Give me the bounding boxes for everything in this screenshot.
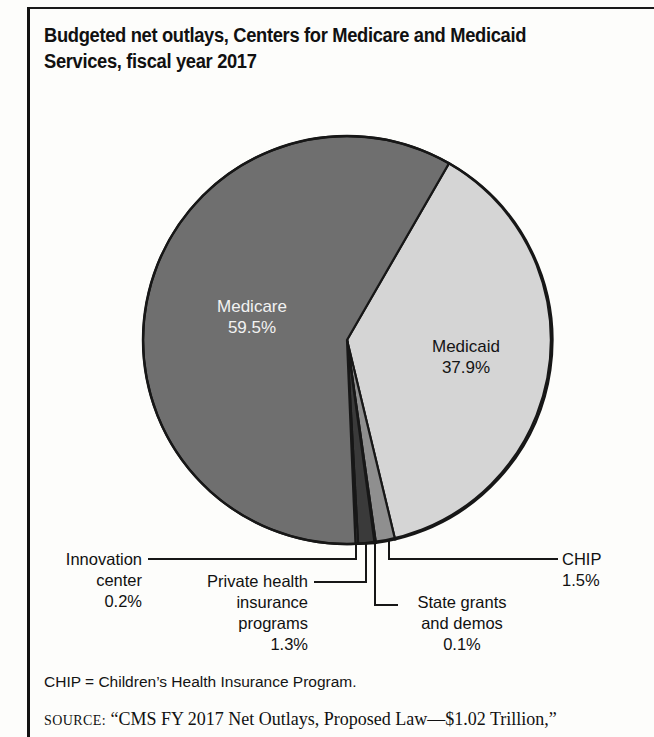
figure-source: SOURCE: “CMS FY 2017 Net Outlays, Propos…	[44, 709, 557, 730]
slice-label-medicare-name: Medicare	[217, 297, 287, 316]
callout-innovation-line-2: center	[20, 570, 142, 591]
slice-label-medicaid-value: 37.9%	[442, 358, 490, 377]
slice-label-medicaid: Medicaid 37.9%	[396, 336, 536, 378]
callout-state-line-2: and demos	[392, 613, 532, 634]
callout-innovation-value: 0.2%	[20, 591, 142, 612]
callout-state-line-1: State grants	[392, 592, 532, 613]
callout-private-line-3: programs	[158, 613, 308, 634]
callout-private-line-2: insurance	[158, 592, 308, 613]
callout-label-private-health: Private health insurance programs 1.3%	[158, 571, 308, 655]
slice-label-medicaid-name: Medicaid	[432, 337, 500, 356]
slice-label-medicare-value: 59.5%	[228, 318, 276, 337]
callout-chip-value: 1.5%	[562, 570, 642, 591]
source-text: “CMS FY 2017 Net Outlays, Proposed Law—$…	[110, 709, 556, 729]
slice-label-medicare: Medicare 59.5%	[182, 296, 322, 338]
callout-label-chip: CHIP 1.5%	[562, 549, 642, 591]
callout-state-value: 0.1%	[392, 634, 532, 655]
leader-line-innovation	[148, 544, 356, 559]
callout-label-state-grants: State grants and demos 0.1%	[392, 592, 532, 655]
figure-page: Budgeted net outlays, Centers for Medica…	[0, 0, 654, 737]
figure-footnote: CHIP = Children’s Health Insurance Progr…	[44, 673, 357, 691]
callout-innovation-line-1: Innovation	[20, 549, 142, 570]
callout-private-line-1: Private health	[158, 571, 308, 592]
callout-chip-name: CHIP	[562, 549, 642, 570]
leader-line-chip	[389, 540, 558, 559]
callout-private-value: 1.3%	[158, 634, 308, 655]
callout-label-innovation-center: Innovation center 0.2%	[20, 549, 142, 612]
source-prefix: SOURCE:	[44, 713, 106, 728]
pie-chart: Medicare 59.5% Medicaid 37.9% Innovation…	[0, 0, 654, 660]
leader-line-private-health	[314, 544, 366, 582]
